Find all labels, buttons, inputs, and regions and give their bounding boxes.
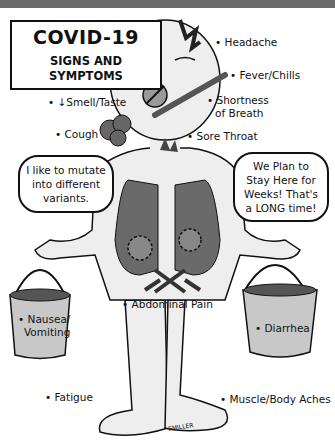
label-muscle-aches: • Muscle/Body Aches xyxy=(220,393,331,406)
title-box: COVID-19 SIGNS AND SYMPTOMS xyxy=(10,20,162,90)
label-smell-taste: • ↓Smell/Taste xyxy=(48,96,126,109)
label-sore-throat: • Sore Throat xyxy=(187,130,258,143)
right-leg xyxy=(165,300,228,431)
label-abdominal-pain: • Abdominal Pain xyxy=(122,298,213,311)
virus-icon xyxy=(128,236,152,260)
label-fatigue: • Fatigue xyxy=(45,391,93,404)
speech-bubble-left: I like to mutate into different variants… xyxy=(18,155,114,213)
page-title: COVID-19 xyxy=(12,26,160,48)
subtitle-line-1: SIGNS AND xyxy=(12,54,160,69)
speech-bubble-right: We Plan to Stay Here for Weeks! That's a… xyxy=(233,152,329,222)
label-diarrhea: • Diarrhea xyxy=(255,322,310,335)
label-cough: • Cough xyxy=(55,128,98,141)
left-leg xyxy=(99,300,168,435)
label-shortness: • Shortness of Breath xyxy=(207,94,269,120)
label-nausea: • Nausea/ Vomiting xyxy=(18,313,70,339)
right-lung xyxy=(175,180,220,275)
cough-cloud-icon xyxy=(110,130,126,146)
label-headache: • Headache xyxy=(215,36,277,49)
subtitle-line-2: SYMPTOMS xyxy=(12,69,160,84)
label-fever: • Fever/Chills xyxy=(230,69,300,82)
left-lung xyxy=(115,180,158,275)
virus-icon xyxy=(179,229,201,251)
page-subtitle: SIGNS AND SYMPTOMS xyxy=(12,54,160,84)
